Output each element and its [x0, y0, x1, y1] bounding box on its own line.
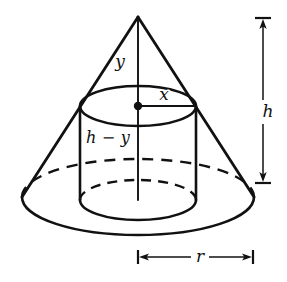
- label-cone-radius: r: [196, 246, 205, 266]
- cone-base-front-arc: [22, 197, 254, 235]
- cylinder-center-dot: [134, 102, 142, 110]
- figure-container: y x h − y h r: [0, 0, 287, 282]
- label-cone-height: h: [263, 101, 274, 121]
- label-cylinder-height: h − y: [86, 128, 131, 147]
- label-cylinder-radius: x: [159, 84, 169, 104]
- cone-cylinder-diagram: y x h − y h r: [0, 0, 287, 282]
- cylinder-bottom-front-arc: [80, 200, 196, 220]
- label-cone-upper-height: y: [114, 51, 125, 71]
